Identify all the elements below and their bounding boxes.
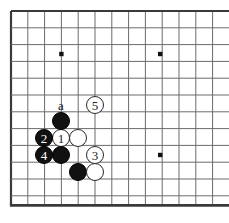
- star-point: [59, 52, 63, 56]
- move-number-label: 4: [36, 149, 52, 162]
- go-stone-black-4: 4: [35, 146, 53, 164]
- move-number-label: 5: [87, 99, 103, 112]
- move-number-label: 1: [53, 132, 69, 145]
- star-point: [158, 52, 162, 56]
- move-number-label: 3: [87, 149, 103, 162]
- star-point: [158, 153, 162, 157]
- go-stone-white-3: 3: [86, 146, 104, 164]
- go-stone-white-5: 5: [86, 96, 104, 114]
- go-stone-black-2: 2: [35, 129, 53, 147]
- go-stone-white-1: 1: [52, 129, 70, 147]
- point-label-a: a: [53, 99, 69, 112]
- board-grid: [0, 0, 229, 223]
- grid-lines: [10, 11, 229, 205]
- move-number-label: 2: [36, 132, 52, 145]
- go-board-diagram: 12345 a: [0, 0, 229, 223]
